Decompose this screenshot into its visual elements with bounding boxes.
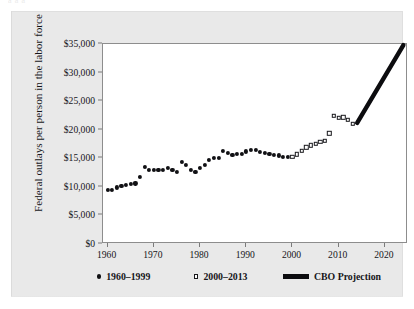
y-tick-label: $15,000	[39, 152, 95, 163]
data-point	[189, 168, 193, 172]
data-point	[198, 166, 202, 170]
data-point	[161, 168, 165, 172]
y-tick-label: $35,000	[39, 38, 95, 49]
data-point	[323, 138, 327, 142]
projection-polyline	[357, 45, 403, 123]
x-tick-mark	[338, 243, 339, 247]
figure-root: a a a Federal outlays per person in the …	[0, 0, 414, 309]
data-point	[184, 163, 188, 167]
y-tick-label: $5,000	[39, 209, 95, 220]
data-point	[327, 131, 331, 135]
data-point	[106, 188, 110, 192]
data-point	[235, 152, 239, 156]
cut-off-caption: a a a	[8, 0, 406, 6]
cbo-projection-line	[103, 44, 408, 244]
data-point	[226, 150, 230, 154]
data-point	[147, 168, 151, 172]
y-tick-label: $30,000	[39, 66, 95, 77]
thick-line-icon	[283, 274, 309, 278]
x-tick-mark	[384, 243, 385, 247]
data-point	[129, 182, 133, 186]
legend-item-2000-2013: 2000–2013	[194, 271, 247, 282]
y-tick-label: $10,000	[39, 180, 95, 191]
data-point	[258, 150, 262, 154]
data-point	[179, 160, 183, 164]
legend-item-cbo-projection: CBO Projection	[283, 271, 381, 282]
x-tick-mark	[245, 243, 246, 247]
data-point	[170, 168, 174, 172]
data-point	[207, 158, 211, 162]
legend-item-1960-1999: 1960–1999	[97, 271, 150, 282]
data-point	[115, 185, 119, 189]
legend-label-cbo-projection: CBO Projection	[314, 271, 381, 282]
legend-label-1960-1999: 1960–1999	[106, 271, 150, 282]
data-point	[253, 148, 257, 152]
data-point	[166, 166, 170, 170]
legend: 1960–1999 2000–2013 CBO Projection	[11, 269, 403, 291]
data-point	[216, 156, 220, 160]
data-point	[175, 170, 179, 174]
data-point	[244, 149, 248, 153]
x-tick-label: 2000	[268, 249, 314, 260]
data-point	[142, 165, 146, 169]
x-tick-label: 1960	[84, 249, 130, 260]
data-point	[212, 156, 216, 160]
data-point	[133, 181, 137, 185]
x-tick-mark	[153, 243, 154, 247]
x-tick-label: 2020	[361, 249, 407, 260]
open-square-icon	[194, 274, 198, 278]
y-tick-label: $20,000	[39, 123, 95, 134]
data-point	[152, 168, 156, 172]
x-tick-label: 2010	[315, 249, 361, 260]
data-point	[156, 168, 160, 172]
data-point	[110, 188, 114, 192]
data-point	[281, 154, 285, 158]
data-point	[138, 174, 142, 178]
x-tick-mark	[107, 243, 108, 247]
filled-circle-icon	[97, 274, 101, 278]
data-point	[193, 170, 197, 174]
legend-label-2000-2013: 2000–2013	[203, 271, 247, 282]
plot-area	[102, 43, 407, 243]
x-tick-mark	[199, 243, 200, 247]
data-point	[240, 152, 244, 156]
data-point	[249, 148, 253, 152]
data-point	[230, 153, 234, 157]
data-point	[277, 153, 281, 157]
data-point	[119, 184, 123, 188]
data-point	[263, 151, 267, 155]
x-tick-label: 1970	[130, 249, 176, 260]
x-tick-mark	[291, 243, 292, 247]
data-point	[272, 153, 276, 157]
x-tick-label: 1990	[222, 249, 268, 260]
x-tick-label: 1980	[176, 249, 222, 260]
data-point	[267, 152, 271, 156]
data-point	[203, 162, 207, 166]
y-tick-label: $25,000	[39, 95, 95, 106]
plot-inner	[103, 44, 406, 242]
y-tick-label: $0	[39, 238, 95, 249]
y-axis-title: Federal outlays per person in the labor …	[32, 0, 44, 228]
figure-card: Federal outlays per person in the labor …	[11, 11, 403, 297]
data-point	[350, 122, 354, 126]
data-point	[221, 149, 225, 153]
data-point	[124, 183, 128, 187]
